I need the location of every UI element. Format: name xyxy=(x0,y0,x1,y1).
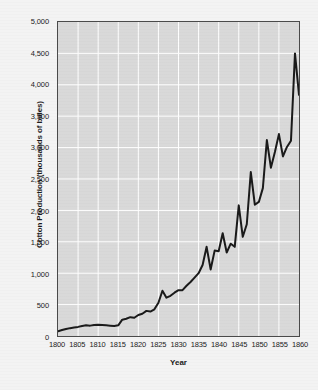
x-tick-label: 1845 xyxy=(231,340,247,349)
x-tick-label: 1800 xyxy=(49,340,65,349)
x-tick-label: 1820 xyxy=(130,340,146,349)
y-tick-label: 3,000 xyxy=(31,143,49,152)
x-tick-label: 1850 xyxy=(252,340,268,349)
plot-svg xyxy=(58,22,299,336)
y-tick-label: 1,500 xyxy=(31,238,49,247)
y-tick-label: 1,000 xyxy=(31,269,49,278)
x-axis-tick-labels: 1800180518101815182018251830183518401845… xyxy=(57,340,300,352)
x-tick-label: 1815 xyxy=(110,340,126,349)
x-tick-label: 1840 xyxy=(211,340,227,349)
y-tick-label: 2,500 xyxy=(31,175,49,184)
y-tick-label: 3,500 xyxy=(31,111,49,120)
x-tick-label: 1805 xyxy=(69,340,85,349)
x-axis-title: Year xyxy=(57,358,300,367)
y-tick-label: 500 xyxy=(37,301,49,310)
cotton-production-chart: Cotton Production (thousands of bales) 0… xyxy=(0,0,318,390)
x-tick-label: 1835 xyxy=(191,340,207,349)
x-tick-label: 1825 xyxy=(150,340,166,349)
y-tick-label: 5,000 xyxy=(31,17,49,26)
x-tick-label: 1860 xyxy=(292,340,308,349)
plot-area xyxy=(57,21,300,337)
y-tick-label: 4,500 xyxy=(31,48,49,57)
x-tick-label: 1810 xyxy=(90,340,106,349)
x-tick-label: 1855 xyxy=(272,340,288,349)
y-axis-tick-labels: 05001,0001,5002,0002,5003,0003,5004,0004… xyxy=(8,21,52,337)
x-tick-label: 1830 xyxy=(171,340,187,349)
y-tick-label: 2,000 xyxy=(31,206,49,215)
y-tick-label: 4,000 xyxy=(31,80,49,89)
